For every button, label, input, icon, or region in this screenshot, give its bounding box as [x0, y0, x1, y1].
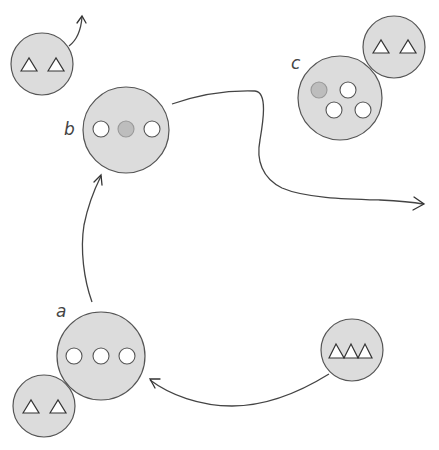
vesicle-filled — [311, 82, 327, 98]
label-a: a — [56, 301, 66, 321]
vesicle-filled — [118, 121, 134, 137]
label-c: c — [291, 53, 301, 73]
cell-c — [298, 56, 382, 140]
vesicle-empty — [326, 102, 342, 118]
cycle-diagram: b c a — [0, 0, 439, 450]
arrow-a-to-b — [82, 175, 102, 302]
arrow-exit-top-left — [69, 16, 86, 46]
cell-a — [57, 312, 145, 400]
vesicle-empty — [355, 102, 371, 118]
small-cell-top-right — [363, 16, 425, 78]
vesicle-empty — [93, 348, 109, 364]
small-cell-top-left — [11, 33, 73, 95]
small-cell-bottom-right — [321, 319, 383, 381]
arrow-bottom-right-to-a — [150, 374, 329, 406]
vesicle-empty — [119, 348, 135, 364]
small-cell-bottom-left — [13, 375, 75, 437]
label-b: b — [64, 119, 75, 139]
vesicle-empty — [144, 121, 160, 137]
vesicle-empty — [93, 121, 109, 137]
vesicle-empty — [66, 348, 82, 364]
vesicle-empty — [340, 82, 356, 98]
arrow-b-to-right — [172, 91, 424, 210]
cell-b — [83, 87, 169, 173]
